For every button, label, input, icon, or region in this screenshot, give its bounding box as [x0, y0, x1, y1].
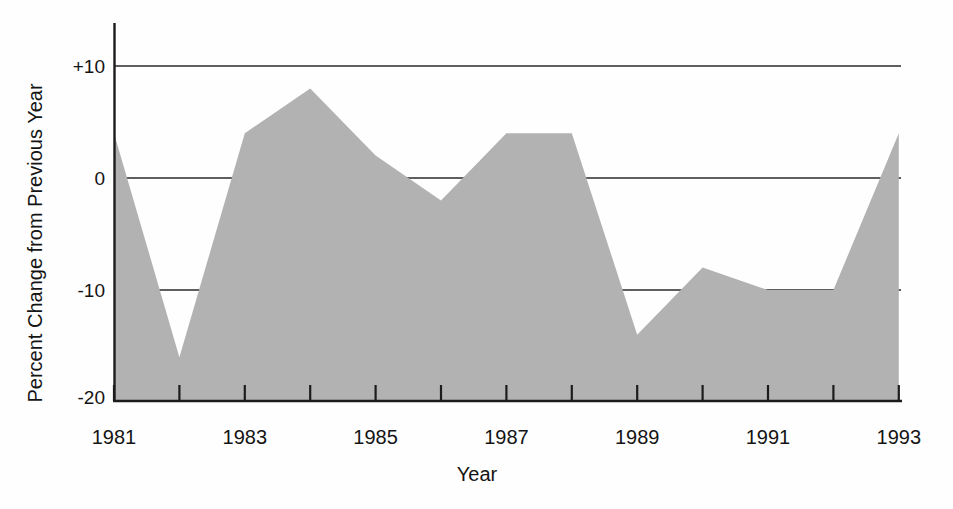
y-tick-label: +10 — [73, 56, 105, 77]
x-tick-label: 1993 — [877, 426, 922, 448]
y-tick-label: -20 — [78, 387, 105, 408]
x-tick-label: 1983 — [223, 426, 268, 448]
y-axis-title: Percent Change from Previous Year — [24, 83, 46, 402]
x-axis-title: Year — [457, 463, 498, 485]
y-tick-label: 0 — [94, 168, 105, 189]
x-tick-label: 1985 — [353, 426, 398, 448]
area-series — [114, 88, 899, 401]
x-tick-labels: 1981198319851987198919911993 — [92, 426, 921, 448]
x-tick-label: 1989 — [615, 426, 660, 448]
y-tick-labels: +100-10-20 — [73, 56, 105, 408]
x-tick-label: 1987 — [484, 426, 529, 448]
x-tick-label: 1981 — [92, 426, 137, 448]
y-tick-label: -10 — [78, 280, 105, 301]
area-chart: +100-10-20 1981198319851987198919911993 … — [0, 0, 953, 509]
x-tick-label: 1991 — [746, 426, 791, 448]
chart-page: +100-10-20 1981198319851987198919911993 … — [0, 0, 953, 509]
